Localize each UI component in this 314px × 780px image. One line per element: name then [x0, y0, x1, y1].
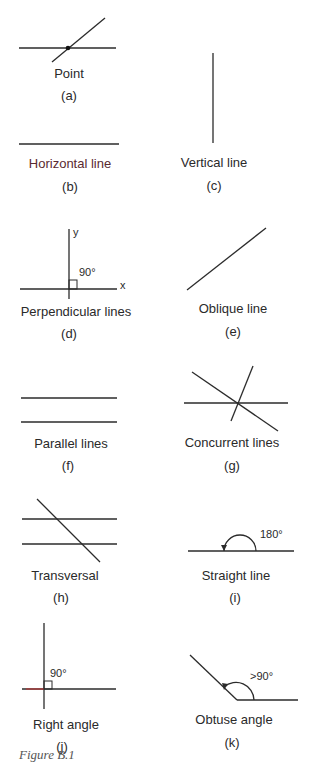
arrowhead-icon — [221, 545, 227, 551]
panel-obtuse-angle: >90° Obtuse angle (k) — [190, 655, 298, 750]
panel-title: Vertical line — [181, 155, 247, 170]
panel-perpendicular-lines: y 90° x Perpendicular lines (d) — [20, 226, 132, 341]
panel-title: Horizontal line — [29, 156, 111, 171]
angle-label: 90° — [50, 667, 67, 679]
panel-title: Oblique line — [199, 301, 268, 316]
oblique-line — [52, 18, 105, 62]
panel-title: Perpendicular lines — [21, 304, 132, 319]
panel-title: Concurrent lines — [185, 435, 280, 450]
panel-oblique-line: Oblique line (e) — [187, 228, 267, 339]
angle-label: >90° — [250, 670, 273, 682]
panel-right-angle: 90° Right angle (j) — [22, 623, 116, 754]
lines-and-angles-figure: Point (a) Horizontal line (b) Vertical l… — [0, 0, 314, 780]
angle-label: 180° — [260, 528, 283, 540]
panel-letter: (i) — [229, 590, 241, 605]
panel-transversal: Transversal (h) — [22, 499, 117, 605]
panel-title: Right angle — [33, 717, 99, 732]
axis-x-label: x — [120, 279, 126, 291]
panel-title: Transversal — [31, 568, 99, 583]
panel-horizontal-line: Horizontal line (b) — [19, 144, 119, 194]
panel-point: Point (a) — [19, 18, 116, 103]
panel-letter: (a) — [61, 88, 77, 103]
panel-letter: (c) — [206, 178, 221, 193]
angle-arc — [224, 535, 256, 551]
panel-letter: (f) — [62, 458, 74, 473]
panel-letter: (d) — [61, 326, 77, 341]
panel-parallel-lines: Parallel lines (f) — [21, 398, 117, 473]
panel-letter: (k) — [224, 735, 239, 750]
panel-vertical-line: Vertical line (c) — [181, 53, 247, 193]
panel-letter: (e) — [225, 324, 241, 339]
panel-title: Point — [54, 66, 84, 81]
oblique-ray — [190, 655, 237, 700]
transversal-line — [37, 499, 100, 562]
panel-title: Obtuse angle — [195, 712, 272, 727]
panel-letter: (h) — [53, 590, 69, 605]
angle-label: 90° — [79, 266, 96, 278]
panel-letter: (g) — [224, 458, 240, 473]
descending-line — [192, 372, 278, 431]
axis-y-label: y — [73, 226, 79, 238]
right-angle-marker — [69, 280, 77, 289]
panel-letter: (b) — [62, 179, 78, 194]
panel-title: Parallel lines — [34, 436, 108, 451]
oblique-line — [187, 228, 266, 290]
panel-concurrent-lines: Concurrent lines (g) — [184, 366, 288, 473]
steep-line — [231, 366, 253, 421]
right-angle-marker — [44, 681, 52, 689]
figure-caption: Figure B.1 — [19, 747, 75, 763]
point-dot — [66, 46, 71, 51]
panel-straight-line: 180° Straight line (i) — [188, 528, 294, 605]
panel-title: Straight line — [202, 568, 271, 583]
